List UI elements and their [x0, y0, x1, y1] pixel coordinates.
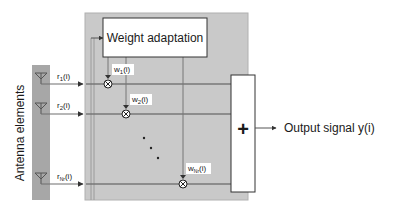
- input-label-rnr: rNr(i): [57, 172, 72, 182]
- input-label-r2: r2(i): [57, 101, 70, 111]
- input-label-r1: r1(i): [57, 72, 70, 82]
- antenna-elements-label: Antenna elements: [13, 85, 27, 182]
- weight-adaptation-label: Weight adaptation: [107, 31, 204, 45]
- output-signal-label: Output signal y(i): [284, 121, 375, 135]
- beamforming-diagram: Weight adaptation + Output signal y(i) A…: [0, 0, 396, 213]
- summation-symbol: +: [237, 118, 249, 140]
